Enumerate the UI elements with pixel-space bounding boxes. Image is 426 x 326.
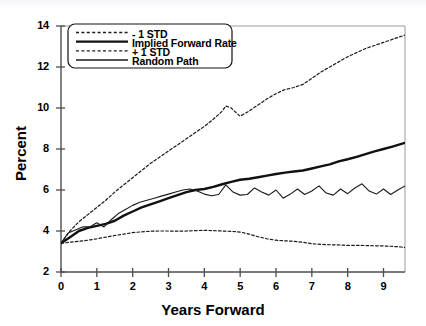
y-tick-label-4: 4 <box>23 224 49 236</box>
x-tick-label-3: 3 <box>159 280 179 292</box>
x-tick-label-5: 5 <box>230 280 250 292</box>
x-tick-label-2: 2 <box>123 280 143 292</box>
x-tick-label-0: 0 <box>51 280 71 292</box>
y-tick-label-12: 12 <box>23 60 49 72</box>
x-tick-label-4: 4 <box>194 280 214 292</box>
x-tick-label-6: 6 <box>266 280 286 292</box>
x-tick-label-8: 8 <box>338 280 358 292</box>
series-line-2 <box>61 230 405 247</box>
chart-figure: 2468101214 0123456789 Years Forward Perc… <box>0 0 426 326</box>
y-tick-label-6: 6 <box>23 183 49 195</box>
x-axis-title: Years Forward <box>0 301 426 318</box>
x-tick-label-7: 7 <box>302 280 322 292</box>
x-tick-label-9: 9 <box>374 280 394 292</box>
y-tick-label-2: 2 <box>23 265 49 277</box>
y-tick-label-14: 14 <box>23 19 49 31</box>
y-axis-title: Percent <box>12 126 29 181</box>
series-line-1 <box>61 143 405 243</box>
y-tick-label-10: 10 <box>23 101 49 113</box>
series-line-3 <box>61 184 405 243</box>
plot-canvas <box>0 0 426 326</box>
x-tick-label-1: 1 <box>87 280 107 292</box>
legend-label-3: Random Path <box>132 55 199 67</box>
